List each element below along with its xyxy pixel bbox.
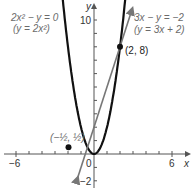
intersection-point-1 (66, 144, 72, 150)
line-equation-alt: (y = 3x + 2) (134, 24, 185, 35)
parabola-equation: 2x² − y = 0 (11, 12, 58, 23)
point-label-2-8: (2, 8) (125, 45, 148, 56)
parabola-equation-alt: (y = 2x²) (13, 23, 50, 34)
chart-container: 2x² − y = 0 (y = 2x²) 3x − y = −2 (y = 3… (0, 0, 196, 189)
point-label-neg-half: (−½, ½) (50, 132, 85, 143)
y-tick-neg2: −2 (80, 176, 91, 187)
line-equation: 3x − y = −2 (134, 12, 184, 23)
y-tick-10: 10 (80, 15, 91, 26)
y-axis (94, 6, 97, 188)
x-tick-6: 6 (169, 158, 175, 169)
intersection-point-2 (117, 44, 123, 50)
x-axis-label: x (184, 158, 189, 169)
x-tick-0: 0 (86, 158, 92, 169)
x-tick-neg6: −6 (9, 158, 20, 169)
y-axis-label: y (86, 1, 91, 12)
